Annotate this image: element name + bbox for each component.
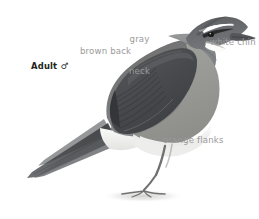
label-white-chin: white chin bbox=[210, 37, 256, 47]
caption-adult-male: Adult ♂ bbox=[31, 61, 68, 71]
label-orange-flanks: orange flanks bbox=[163, 135, 224, 145]
label-gray-neck: gray neck bbox=[129, 13, 150, 97]
label-gray-neck-line1: gray bbox=[129, 34, 150, 45]
tail bbox=[27, 119, 120, 178]
label-brown-back: brown back bbox=[80, 46, 131, 56]
label-gray-neck-line2: neck bbox=[129, 66, 150, 77]
bird-illustration-plate: gray neck brown back white chin orange f… bbox=[0, 0, 259, 219]
